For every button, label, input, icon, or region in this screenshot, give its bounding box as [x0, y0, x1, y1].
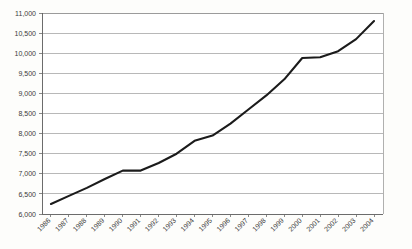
y-tick-label: 6,000	[18, 211, 36, 218]
x-tick-label: 1988	[72, 217, 88, 233]
y-tick-label: 6,500	[18, 191, 36, 198]
x-tick-label: 2001	[305, 217, 321, 233]
y-axis-tick-labels: 6,0006,5007,0007,5008,0008,5009,0009,500…	[15, 10, 37, 218]
y-tick-label: 9,500	[18, 70, 36, 77]
x-tick-label: 1992	[143, 217, 159, 233]
x-tick-label: 1987	[54, 217, 70, 233]
x-tick-label: 1994	[179, 217, 195, 233]
y-tick-label: 10,500	[15, 30, 37, 37]
y-tick-label: 7,500	[18, 150, 36, 157]
x-tick-label: 1986	[36, 217, 52, 233]
x-tick-label: 2003	[341, 217, 357, 233]
x-tick-label: 1997	[233, 217, 249, 233]
x-tick-label: 1993	[161, 217, 177, 233]
x-tick-label: 1989	[90, 217, 106, 233]
x-tick-label: 1996	[215, 217, 231, 233]
x-tick-label: 2004	[359, 217, 375, 233]
line-chart: 6,0006,5007,0007,5008,0008,5009,0009,500…	[0, 0, 412, 249]
y-tick-label: 7,000	[18, 170, 36, 177]
y-tick-label: 10,000	[15, 50, 37, 57]
x-axis-tick-labels: 1986198719881989199019911992199319941995…	[36, 217, 375, 233]
x-tick-label: 1995	[197, 217, 213, 233]
x-tick-label: 2002	[323, 217, 339, 233]
x-tick-label: 1991	[125, 217, 141, 233]
x-tick-label: 1998	[251, 217, 267, 233]
y-tick-label: 11,000	[15, 10, 36, 17]
y-tick-label: 8,000	[18, 130, 36, 137]
x-tick-label: 1990	[108, 217, 124, 233]
chart-figure: 6,0006,5007,0007,5008,0008,5009,0009,500…	[0, 0, 412, 249]
x-tick-label: 1999	[269, 217, 285, 233]
y-tick-label: 8,500	[18, 110, 36, 117]
x-tick-label: 2000	[287, 217, 303, 233]
y-tick-label: 9,000	[18, 90, 36, 97]
